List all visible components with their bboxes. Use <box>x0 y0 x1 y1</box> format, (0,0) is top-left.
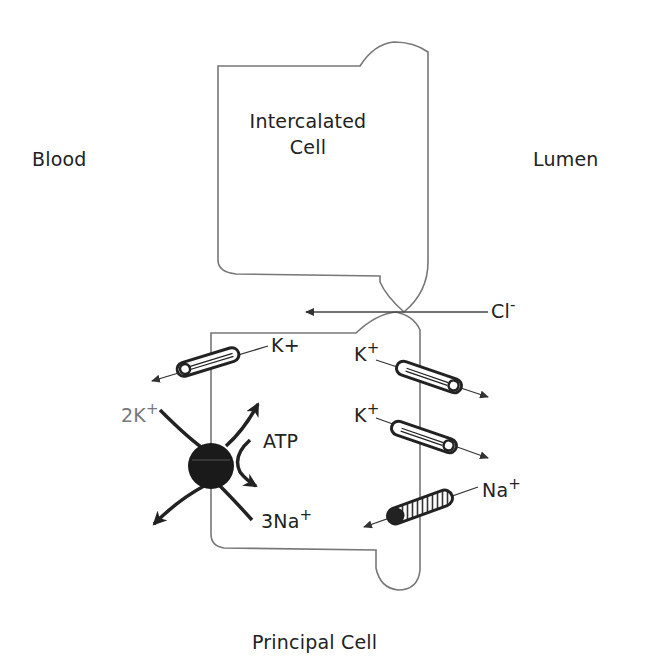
diagram-canvas <box>0 0 653 669</box>
intercalated-cell-label-line1: Intercalated <box>230 108 386 134</box>
intercalated-cell-label: Intercalated Cell <box>230 108 386 160</box>
k-channel-apical-1 <box>376 359 488 397</box>
na-apical-charge: + <box>508 475 521 493</box>
blood-label: Blood <box>32 150 87 169</box>
intercalated-cell-label-line2: Cell <box>230 134 386 160</box>
k-basolateral-label: K+ <box>271 336 300 355</box>
lumen-label: Lumen <box>533 150 599 169</box>
pump-na-charge: + <box>300 506 313 524</box>
atp-label: ATP <box>263 432 298 451</box>
pump-na-base: 3Na <box>261 510 300 532</box>
k-channel-apical-2 <box>376 418 488 458</box>
principal-cell-label: Principal Cell <box>252 633 377 652</box>
pump-k-label: 2K+ <box>121 406 159 425</box>
pump-k-base: 2K <box>121 404 146 426</box>
pump-k-charge: + <box>146 400 159 418</box>
na-apical-label: Na+ <box>482 481 521 500</box>
k-apical-1-base: K <box>354 343 367 365</box>
na-k-atpase-pump <box>154 404 258 524</box>
k-basolateral-base: K+ <box>271 334 300 356</box>
pump-na-label: 3Na+ <box>261 512 312 531</box>
k-channel-basolateral <box>152 346 268 381</box>
k-apical-2-label: K+ <box>354 406 379 425</box>
k-apical-1-label: K+ <box>354 345 379 364</box>
na-apical-base: Na <box>482 479 508 501</box>
cl-ion-base: Cl <box>491 300 510 322</box>
na-channel-apical <box>364 487 478 527</box>
cl-ion-charge: - <box>510 296 516 314</box>
k-apical-1-charge: + <box>367 339 380 357</box>
k-apical-2-charge: + <box>367 400 380 418</box>
k-apical-2-base: K <box>354 404 367 426</box>
intercalated-cell-outline <box>218 42 428 312</box>
cl-ion-label: Cl- <box>491 302 516 321</box>
